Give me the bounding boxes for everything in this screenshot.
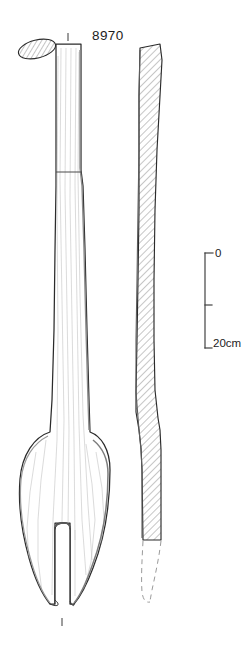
- catalogue-number-label: 8970: [92, 28, 124, 43]
- scale-zero-label: 0: [215, 247, 221, 259]
- tine-notch: [55, 523, 70, 604]
- artefact-drawing-plate: [0, 0, 252, 651]
- scale-max-label: 20cm: [213, 337, 241, 349]
